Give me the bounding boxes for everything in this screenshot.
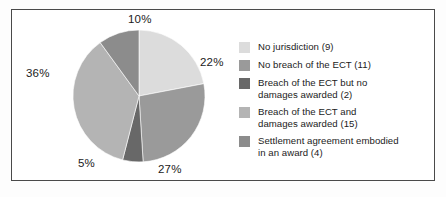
legend-item[interactable]: No breach of the ECT (11) <box>239 59 429 71</box>
pie-chart: 22%27%5%36%10% <box>0 0 240 197</box>
pie-value-label: 5% <box>78 157 95 169</box>
legend-item-label: Settlement agreement embodiedin an award… <box>258 135 399 158</box>
pie-slice-group <box>73 30 205 162</box>
pie-slice[interactable] <box>139 84 205 162</box>
pie-value-label: 36% <box>26 67 50 79</box>
legend-item[interactable]: Breach of the ECT anddamages awarded (15… <box>239 106 429 129</box>
legend-color-swatch <box>239 78 250 89</box>
legend-item-label: No jurisdiction (9) <box>258 41 334 53</box>
legend-item-label: Breach of the ECT anddamages awarded (15… <box>258 106 358 129</box>
pie-value-label: 22% <box>200 56 224 68</box>
figure-container: 22%27%5%36%10% No jurisdiction (9)No bre… <box>0 0 446 197</box>
pie-value-label: 10% <box>128 13 152 25</box>
legend-item[interactable]: Settlement agreement embodiedin an award… <box>239 135 429 158</box>
chart-legend: No jurisdiction (9)No breach of the ECT … <box>239 41 429 165</box>
legend-item-label: Breach of the ECT but nodamages awarded … <box>258 77 367 100</box>
pie-value-label: 27% <box>158 163 182 175</box>
legend-item[interactable]: Breach of the ECT but nodamages awarded … <box>239 77 429 100</box>
legend-color-swatch <box>239 136 250 147</box>
legend-color-swatch <box>239 60 250 71</box>
legend-color-swatch <box>239 42 250 53</box>
legend-color-swatch <box>239 107 250 118</box>
legend-item-label: No breach of the ECT (11) <box>258 59 371 71</box>
legend-item[interactable]: No jurisdiction (9) <box>239 41 429 53</box>
pie-chart-svg <box>0 0 240 197</box>
